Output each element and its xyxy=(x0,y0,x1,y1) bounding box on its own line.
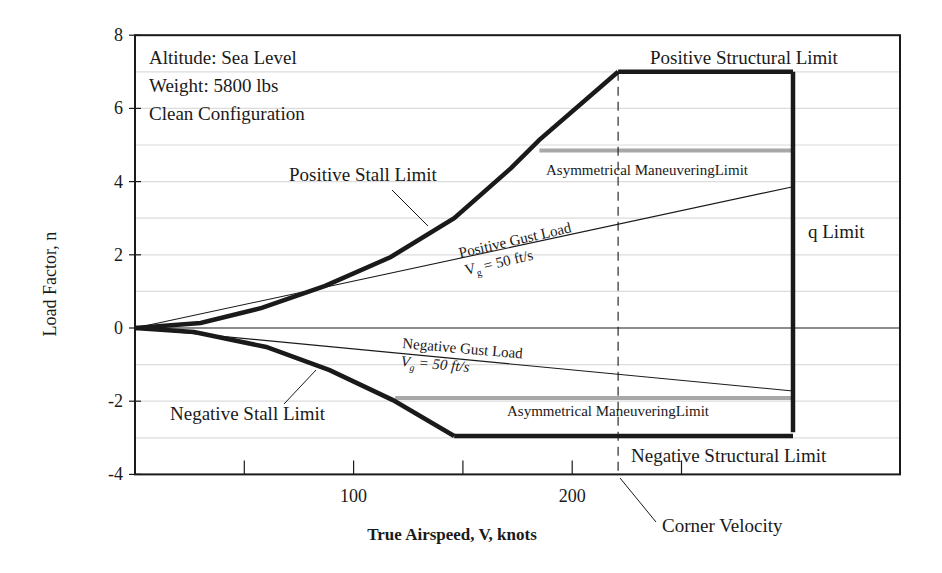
condition-altitude: Altitude: Sea Level xyxy=(149,47,297,68)
label-corner-velocity: Corner Velocity xyxy=(662,515,783,536)
svg-text:Vg = 50 ft/s: Vg = 50 ft/s xyxy=(400,353,470,378)
y-tick-label: 4 xyxy=(114,172,123,192)
y-tick-label: 0 xyxy=(114,318,123,338)
leader-corner-velocity xyxy=(620,478,656,522)
x-tick-label: 200 xyxy=(559,486,586,506)
label-negative-stall-limit: Negative Stall Limit xyxy=(170,403,326,424)
label-positive-stall-limit: Positive Stall Limit xyxy=(289,164,438,185)
y-tick-label: 2 xyxy=(114,245,123,265)
condition-weight: Weight: 5800 lbs xyxy=(149,75,278,96)
y-tick-label: -4 xyxy=(108,464,123,484)
label-negative-structural-limit: Negative Structural Limit xyxy=(631,445,827,466)
y-tick-label: 8 xyxy=(114,25,123,45)
condition-configuration: Clean Configuration xyxy=(149,103,305,124)
y-tick-label: 6 xyxy=(114,98,123,118)
label-positive-gust: Positive Gust Load Vg = 50 ft/s xyxy=(457,219,578,281)
vn-diagram-chart: -4-202468100200 Altitude: Sea Level Weig… xyxy=(0,0,942,573)
leader-positive-stall xyxy=(392,190,428,226)
x-tick-label: 100 xyxy=(340,486,367,506)
y-tick-label: -2 xyxy=(108,391,123,411)
label-positive-structural-limit: Positive Structural Limit xyxy=(650,47,839,68)
leader-negative-stall xyxy=(284,370,316,404)
y-axis-title: Load Factor, n xyxy=(40,232,60,337)
label-negative-gust: Negative Gust Load Vg = 50 ft/s xyxy=(400,335,524,382)
label-asym-maneuvering-negative: Asymmetrical ManeuveringLimit xyxy=(507,403,710,419)
label-q-limit: q Limit xyxy=(808,221,865,242)
x-axis-title: True Airspeed, V, knots xyxy=(367,525,537,544)
label-asym-maneuvering-positive: Asymmetrical ManeuveringLimit xyxy=(546,162,749,178)
